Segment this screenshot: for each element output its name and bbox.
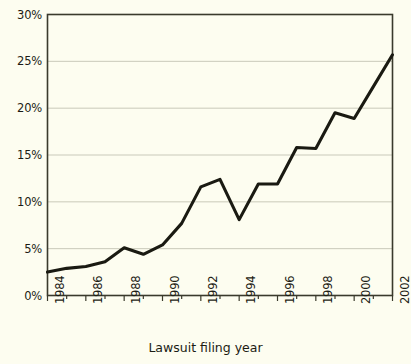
x-tick-label: 2002 [398,275,411,303]
line-chart-plot [0,0,411,364]
x-tick-label: 1986 [91,275,105,303]
y-tick-label: 5% [2,242,42,256]
x-tick-label: 1992 [206,275,220,303]
chart-background [0,0,411,364]
x-axis-title: Lawsuit filing year [0,340,411,355]
chart-figure: 0%5%10%15%20%25%30% 19841986198819901992… [0,0,411,364]
x-tick-label: 1988 [129,275,143,303]
x-tick-label: 2000 [359,275,373,303]
y-tick-label: 20% [2,101,42,115]
y-tick-label: 25% [2,54,42,68]
x-tick-label: 1998 [321,275,335,303]
y-tick-label: 0% [2,289,42,303]
y-tick-label: 30% [2,8,42,22]
x-tick-label: 1996 [283,275,297,303]
y-tick-label: 15% [2,148,42,162]
x-tick-label: 1984 [53,275,67,303]
x-tick-label: 1990 [168,275,182,303]
y-tick-label: 10% [2,195,42,209]
x-tick-label: 1994 [244,275,258,303]
